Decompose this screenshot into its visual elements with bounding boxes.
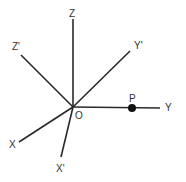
x-axis-line (19, 107, 73, 142)
y-axis-label: Y (165, 102, 172, 113)
y-prime-axis-label: Y' (134, 40, 143, 51)
point-p-label: P (129, 93, 136, 104)
point-p-marker (128, 104, 136, 112)
coordinate-axes-diagram: Z Z' Y' Y X X' O P (0, 0, 186, 182)
labels-group: Z Z' Y' Y X X' O P (9, 8, 172, 174)
z-prime-axis-line (21, 55, 73, 107)
x-prime-axis-label: X' (56, 163, 65, 174)
z-prime-axis-label: Z' (12, 41, 20, 52)
y-axis-line (73, 107, 160, 108)
x-axis-label: X (9, 139, 16, 150)
z-axis-label: Z (69, 8, 75, 19)
y-prime-axis-line (73, 51, 130, 107)
origin-label: O (75, 110, 83, 121)
